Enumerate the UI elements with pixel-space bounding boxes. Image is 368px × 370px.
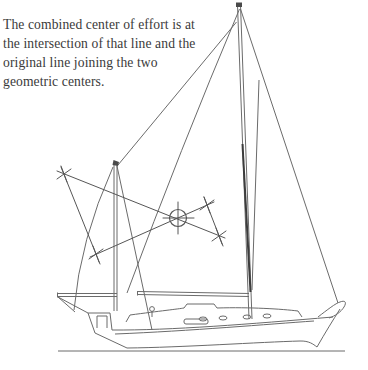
mizzen-sail (58, 166, 153, 330)
mizzen-stay (117, 166, 152, 330)
masthead-truck (236, 3, 242, 8)
main-mast (236, 3, 259, 320)
winch-top (150, 307, 155, 312)
porthole (243, 315, 251, 319)
main-boom (138, 291, 250, 297)
x-mark-lower-left-tick-2 (93, 246, 99, 262)
hull-deck-line (88, 313, 333, 330)
forestay (241, 9, 339, 303)
sailboat-drawing (58, 3, 346, 352)
main-boom-bottom (138, 295, 249, 297)
book-illustration-page: The combined center of effort is at the … (0, 0, 368, 370)
mizzen-masthead-truck (113, 160, 120, 166)
ce-line-joining-centers (57, 171, 225, 238)
bow-beak (318, 301, 345, 318)
main-boom-top (138, 292, 249, 294)
ce-crossing-line (90, 202, 214, 257)
center-of-effort-construction (57, 166, 226, 264)
sailboat-diagram (0, 0, 368, 370)
porthole (263, 314, 271, 318)
mizzen-mast (113, 160, 120, 311)
rub-rail-line (115, 321, 314, 334)
cabin (126, 304, 302, 324)
mizzen-leech (74, 167, 113, 310)
porthole (219, 316, 227, 320)
stern-locker (97, 316, 107, 328)
x-mark-upper-right-tick-2 (204, 197, 210, 213)
rigging (118, 9, 338, 303)
mainsail-leech (127, 9, 240, 293)
x-mark-upper-left-tick-2 (61, 166, 67, 182)
spring-stay (118, 22, 237, 165)
cabin-window (184, 319, 208, 324)
main-halyard (252, 80, 259, 290)
